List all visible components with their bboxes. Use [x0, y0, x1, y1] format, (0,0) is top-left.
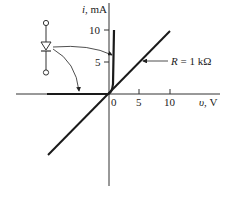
pointer-arrow-reverse — [53, 49, 79, 91]
resistor-label: R = 1 kΩ — [170, 55, 211, 67]
diode-curve — [47, 30, 114, 94]
y-tick-label-10: 10 — [89, 24, 101, 36]
pointer-arrow-forward — [53, 46, 112, 55]
iv-characteristic-diagram: i, mA 10 5 0 5 10 υ, V R = 1 kΩ — [0, 0, 231, 197]
y-tick-label-5: 5 — [95, 56, 101, 68]
diode-symbol-icon — [41, 20, 51, 75]
x-axis-label: υ, V — [199, 96, 218, 108]
x-tick-label-10: 10 — [164, 96, 176, 108]
y-axis-label: i, mA — [82, 3, 107, 15]
x-tick-label-5: 5 — [136, 96, 142, 108]
x-tick-label-0: 0 — [111, 96, 117, 108]
